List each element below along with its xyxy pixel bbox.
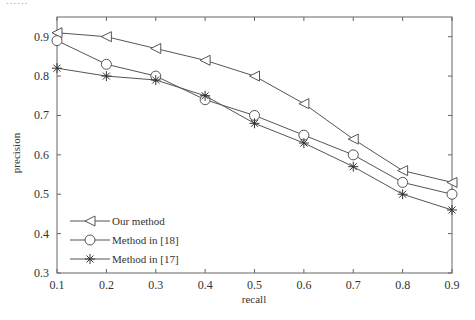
triangle-marker-icon — [250, 71, 260, 81]
x-tick-label: 0.4 — [198, 278, 213, 292]
x-tick-label: 0.3 — [148, 278, 163, 292]
y-tick-label: 0.7 — [34, 108, 49, 122]
series-method-in-17 — [52, 63, 457, 215]
legend-item: Our method — [70, 215, 165, 227]
x-tick-label: 0.6 — [296, 278, 311, 292]
x-axis-ticks: 0.10.20.30.40.50.60.70.80.9 — [50, 17, 460, 292]
asterisk-marker-icon — [200, 91, 210, 101]
triangle-marker-icon — [348, 134, 358, 144]
asterisk-marker-icon — [250, 118, 260, 128]
legend-label: Our method — [112, 215, 165, 227]
series-method-in-18 — [52, 36, 457, 200]
x-tick-label: 0.9 — [445, 278, 460, 292]
asterisk-marker-icon — [447, 205, 457, 215]
legend: Our methodMethod in [18]Method in [17] — [70, 215, 179, 265]
precision-recall-chart: 0.10.20.30.40.50.60.70.80.9 0.30.40.50.6… — [0, 0, 475, 320]
y-tick-label: 0.3 — [34, 266, 49, 280]
y-axis-ticks: 0.30.40.50.60.70.80.9 — [34, 30, 452, 280]
x-axis-label: recall — [242, 293, 266, 305]
circle-marker-icon — [85, 235, 95, 245]
circle-marker-icon — [101, 59, 111, 69]
legend-label: Method in [17] — [112, 253, 179, 265]
asterisk-marker-icon — [348, 162, 358, 172]
y-tick-label: 0.9 — [34, 30, 49, 44]
asterisk-marker-icon — [299, 138, 309, 148]
circle-marker-icon — [447, 189, 457, 199]
circle-marker-icon — [398, 177, 408, 187]
y-tick-label: 0.6 — [34, 148, 49, 162]
asterisk-marker-icon — [52, 63, 62, 73]
asterisk-marker-icon — [101, 71, 111, 81]
legend-item: Method in [17] — [70, 253, 179, 265]
asterisk-marker-icon — [85, 254, 95, 264]
triangle-marker-icon — [200, 55, 210, 65]
series-our-method — [52, 28, 457, 188]
series-line — [57, 33, 452, 183]
series-line — [57, 68, 452, 210]
y-tick-label: 0.5 — [34, 187, 49, 201]
legend-label: Method in [18] — [112, 234, 179, 246]
triangle-marker-icon — [85, 216, 95, 226]
x-tick-label: 0.8 — [395, 278, 410, 292]
circle-marker-icon — [52, 36, 62, 46]
y-tick-label: 0.4 — [34, 227, 49, 241]
asterisk-marker-icon — [398, 189, 408, 199]
x-tick-label: 0.1 — [50, 278, 65, 292]
triangle-marker-icon — [151, 44, 161, 54]
triangle-marker-icon — [101, 32, 111, 42]
x-tick-label: 0.2 — [99, 278, 114, 292]
data-series — [52, 28, 457, 215]
x-tick-label: 0.5 — [247, 278, 262, 292]
legend-item: Method in [18] — [70, 234, 179, 246]
y-tick-label: 0.8 — [34, 69, 49, 83]
triangle-marker-icon — [398, 166, 408, 176]
y-axis-label: precision — [10, 132, 22, 173]
asterisk-marker-icon — [151, 75, 161, 85]
triangle-marker-icon — [299, 99, 309, 109]
x-tick-label: 0.7 — [346, 278, 361, 292]
circle-marker-icon — [348, 150, 358, 160]
